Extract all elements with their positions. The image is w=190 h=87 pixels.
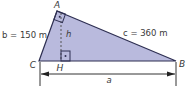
height-label-h: h (66, 29, 71, 39)
vertex-label-a: A (53, 0, 60, 10)
arrowhead-left-icon (41, 72, 49, 77)
vertex-label-c: C (30, 60, 37, 70)
vertex-label-b: B (179, 59, 185, 69)
triangle-diagram: A C B H b = 150 m c = 360 m a h (0, 0, 190, 87)
side-label-a: a (106, 75, 111, 85)
arrowhead-right-icon (167, 72, 175, 77)
vertex-label-h: H (57, 63, 64, 73)
side-label-c: c = 360 m (123, 28, 167, 38)
side-label-b: b = 150 m (2, 30, 47, 40)
